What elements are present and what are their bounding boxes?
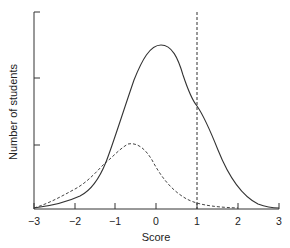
x-tick-label: −2 [69, 215, 81, 227]
chart: −3 −2 −1 0 1 2 3 Score Number of student… [0, 0, 290, 248]
dashed-curve [34, 144, 238, 208]
y-axis-title: Number of students [7, 64, 19, 160]
x-tick-label: 2 [235, 215, 241, 227]
x-axis-title: Score [142, 231, 171, 243]
x-tick-label: −3 [28, 215, 40, 227]
x-tick-label: −1 [109, 215, 121, 227]
y-axis [34, 12, 40, 209]
x-tick-labels: −3 −2 −1 0 1 2 3 [28, 215, 282, 227]
x-tick-label: 3 [276, 215, 282, 227]
x-tick-label: 1 [194, 215, 200, 227]
solid-curve [34, 45, 279, 208]
x-axis [34, 203, 279, 209]
x-tick-label: 0 [153, 215, 159, 227]
